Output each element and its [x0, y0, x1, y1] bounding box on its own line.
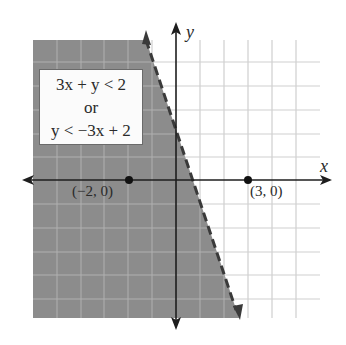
inequality-box: 3x + y < 2 or y < −3x + 2 — [39, 69, 143, 145]
x-axis-label: x — [320, 156, 328, 177]
point-label-neg2-0: (−2, 0) — [72, 183, 113, 200]
boundary-arrow-head-icon — [142, 30, 151, 45]
y-axis-label: y — [186, 22, 194, 43]
coordinate-plane — [0, 0, 346, 345]
inequality-line-2: or — [40, 96, 142, 119]
inequality-line-1: 3x + y < 2 — [40, 73, 142, 96]
inequality-line-3: y < −3x + 2 — [40, 119, 142, 142]
point-neg2-0 — [125, 176, 133, 184]
point-label-3-0: (3, 0) — [250, 183, 283, 200]
